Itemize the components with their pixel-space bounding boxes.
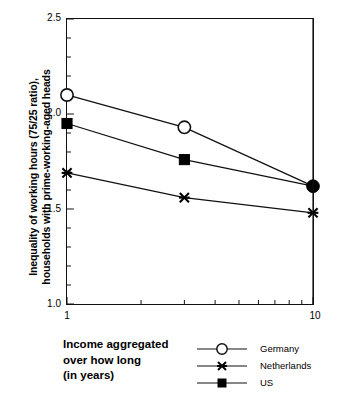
x-tick-label-10: 10 bbox=[302, 310, 328, 321]
plot-svg bbox=[67, 19, 313, 304]
y-tick-label-1-5: 1.5 bbox=[29, 203, 61, 214]
legend-label-us: US bbox=[260, 377, 273, 388]
y-tick-label-2-5: 2.5 bbox=[29, 12, 61, 23]
x-axis-title-line-3: (in years) bbox=[63, 368, 203, 384]
chart-legend: Germany Netherlands US bbox=[196, 340, 338, 391]
legend-label-netherlands: Netherlands bbox=[260, 360, 311, 371]
series-us-line bbox=[67, 123, 313, 186]
series-netherlands-point-x1 bbox=[62, 168, 73, 177]
chart-figure: Inequality of working hours (75/25 ratio… bbox=[0, 0, 341, 396]
legend-marker-filled-square-icon bbox=[196, 375, 248, 391]
series-germany-line bbox=[67, 95, 313, 186]
series-germany-point-x3 bbox=[178, 121, 190, 133]
y-axis-title-line-2: households with prime-working-aged heads bbox=[40, 69, 53, 284]
series-germany-point-x1 bbox=[61, 89, 73, 101]
legend-marker-cross-star-icon bbox=[196, 358, 248, 374]
plot-area bbox=[66, 18, 314, 305]
series-netherlands bbox=[62, 168, 319, 217]
series-us-point-x1 bbox=[62, 118, 72, 128]
x-axis-title: Income aggregated over how long (in year… bbox=[63, 337, 203, 384]
x-axis-title-line-1: Income aggregated bbox=[63, 337, 203, 353]
legend-marker-open-circle-icon bbox=[196, 341, 248, 357]
legend-item-netherlands: Netherlands bbox=[196, 357, 338, 374]
series-netherlands-point-x3 bbox=[179, 193, 190, 202]
x-axis-ticks bbox=[67, 297, 313, 304]
series-us-point-x3 bbox=[179, 155, 189, 165]
y-axis-title: Inequality of working hours (75/25 ratio… bbox=[23, 17, 57, 337]
x-axis-title-line-2: over how long bbox=[63, 353, 203, 369]
legend-label-germany: Germany bbox=[260, 343, 299, 354]
y-tick-label-2-0: 2.0 bbox=[29, 107, 61, 118]
legend-item-germany: Germany bbox=[196, 340, 338, 357]
y-tick-label-1-0: 1.0 bbox=[29, 298, 61, 309]
y-axis-ticks bbox=[67, 19, 74, 304]
legend-item-us: US bbox=[196, 374, 338, 391]
series-germany bbox=[61, 89, 313, 186]
x-tick-label-1: 1 bbox=[54, 310, 80, 321]
